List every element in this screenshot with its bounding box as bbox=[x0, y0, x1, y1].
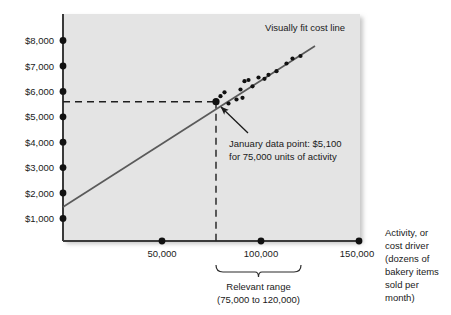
cost-line-label: Visually fit cost line bbox=[265, 22, 345, 33]
y-tick-label-1000: $1,000 bbox=[25, 213, 54, 224]
x-axis-caption-line-4: sold per bbox=[385, 279, 419, 290]
y-tick-dot-3000 bbox=[60, 164, 67, 171]
data-point bbox=[234, 97, 238, 101]
data-point bbox=[246, 78, 250, 82]
data-point bbox=[242, 79, 246, 83]
x-tick-label-100000: 100,000 bbox=[244, 248, 278, 259]
y-tick-dot-4000 bbox=[60, 139, 67, 146]
y-tick-label-2000: $2,000 bbox=[25, 188, 54, 199]
plot-area-background bbox=[63, 14, 360, 241]
y-tick-dot-1000 bbox=[60, 215, 67, 222]
y-tick-dot-6000 bbox=[60, 88, 67, 95]
data-point bbox=[284, 61, 288, 65]
data-point bbox=[274, 69, 278, 73]
x-axis-caption-line-3: bakery items bbox=[385, 266, 439, 277]
y-tick-label-3000: $3,000 bbox=[25, 162, 54, 173]
data-point bbox=[240, 96, 244, 100]
x-axis-caption: Activity, or cost driver (dozens of bake… bbox=[385, 227, 439, 303]
x-tick-label-50000: 50,000 bbox=[147, 248, 176, 259]
y-tick-label-4000: $4,000 bbox=[25, 137, 54, 148]
y-tick-dot-5000 bbox=[60, 113, 67, 120]
data-point bbox=[256, 75, 260, 79]
y-tick-label-7000: $7,000 bbox=[25, 61, 54, 72]
data-point bbox=[222, 90, 226, 94]
y-tick-dot-7000 bbox=[60, 63, 67, 70]
data-point bbox=[262, 77, 266, 81]
relevant-range-label-line2: (75,000 to 120,000) bbox=[217, 294, 300, 305]
x-tick-dot-50000 bbox=[159, 238, 166, 245]
x-tick-dot-100000 bbox=[258, 238, 265, 245]
january-annotation-line1: January data point: $5,100 bbox=[229, 138, 342, 149]
x-tick-dot-150000 bbox=[356, 238, 363, 245]
x-axis-caption-line-1: cost driver bbox=[385, 240, 429, 251]
x-axis-caption-line-0: Activity, or bbox=[385, 227, 428, 238]
data-point bbox=[218, 94, 222, 98]
y-tick-label-5000: $5,000 bbox=[25, 111, 54, 122]
y-tick-label-8000: $8,000 bbox=[25, 35, 54, 46]
data-point bbox=[226, 101, 230, 105]
cost-behavior-scatter-chart: $8,000 $7,000 $6,000 $5,000 $4,000 $3,00… bbox=[0, 0, 451, 315]
january-annotation-line2: for 75,000 units of activity bbox=[229, 151, 337, 162]
relevant-range-label-line1: Relevant range bbox=[226, 281, 290, 292]
data-point bbox=[250, 84, 254, 88]
y-tick-dot-8000 bbox=[60, 37, 67, 44]
data-point bbox=[298, 54, 302, 58]
relevant-range-bracket bbox=[216, 265, 301, 277]
y-tick-label-6000: $6,000 bbox=[25, 86, 54, 97]
x-axis-caption-line-2: (dozens of bbox=[385, 253, 430, 264]
data-point-january bbox=[212, 98, 219, 105]
data-point bbox=[290, 56, 294, 60]
x-tick-label-150000: 150,000 bbox=[340, 248, 374, 259]
y-tick-dot-2000 bbox=[60, 190, 67, 197]
x-axis-caption-line-5: month) bbox=[385, 292, 415, 303]
data-point bbox=[266, 73, 270, 77]
data-point bbox=[238, 87, 242, 91]
